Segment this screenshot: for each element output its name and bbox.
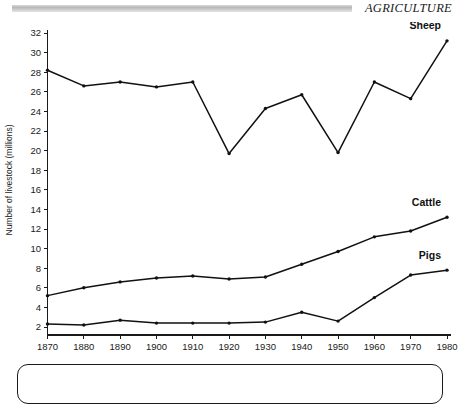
y-tick-label: 18 — [30, 165, 41, 176]
data-point — [155, 276, 158, 279]
data-point — [118, 280, 121, 283]
data-point — [373, 80, 376, 83]
x-tick-label: 1890 — [110, 341, 131, 352]
horizontal-rule-icon — [12, 5, 352, 12]
data-point — [336, 151, 339, 154]
data-point — [409, 97, 412, 100]
data-point — [155, 321, 158, 324]
x-tick-label: 1870 — [37, 341, 58, 352]
data-point — [373, 235, 376, 238]
y-tick-label: 20 — [30, 145, 41, 156]
y-tick-label: 24 — [30, 106, 41, 117]
series-label-sheep: Sheep — [409, 22, 441, 31]
x-tick-label: 1980 — [436, 341, 457, 352]
data-point — [336, 250, 339, 253]
data-point — [46, 322, 49, 325]
series-line-sheep — [48, 41, 448, 154]
data-point — [155, 85, 158, 88]
data-point — [300, 263, 303, 266]
y-axis-title-text: Number of livestock (millions) — [4, 124, 14, 235]
y-tick-label: 6 — [36, 282, 41, 293]
x-tick-label: 1950 — [327, 341, 348, 352]
series-label-pigs: Pigs — [419, 249, 441, 261]
x-tick-label: 1930 — [255, 341, 276, 352]
data-point — [191, 274, 194, 277]
y-tick-label: 26 — [30, 86, 41, 97]
data-point — [46, 69, 49, 72]
data-point — [118, 318, 121, 321]
data-point — [227, 152, 230, 155]
y-tick-label: 4 — [36, 302, 41, 313]
y-tick-label: 8 — [36, 263, 41, 274]
y-tick-label: 28 — [30, 67, 41, 78]
x-tick-label: 1960 — [364, 341, 385, 352]
y-tick-label: 14 — [30, 204, 41, 215]
y-tick-label: 16 — [30, 184, 41, 195]
data-point — [191, 80, 194, 83]
data-point — [409, 273, 412, 276]
y-tick-label: 22 — [30, 125, 41, 136]
series-line-cattle — [48, 217, 448, 295]
data-point — [46, 294, 49, 297]
y-tick-label: 32 — [30, 27, 41, 38]
data-point — [409, 229, 412, 232]
page-title: AGRICULTURE — [365, 1, 452, 16]
x-tick-label: 1920 — [219, 341, 240, 352]
series-label-cattle: Cattle — [412, 196, 441, 208]
data-point — [82, 286, 85, 289]
data-point — [300, 93, 303, 96]
x-tick-label: 1910 — [182, 341, 203, 352]
data-point — [264, 275, 267, 278]
y-tick-label: 12 — [30, 223, 41, 234]
livestock-line-chart: 2468101214161820222426283032 18701880189… — [0, 22, 460, 358]
data-point — [118, 80, 121, 83]
data-point — [445, 216, 448, 219]
data-point — [191, 321, 194, 324]
y-axis-ticks: 2468101214161820222426283032 — [30, 27, 47, 332]
x-tick-label: 1880 — [73, 341, 94, 352]
x-tick-label: 1970 — [400, 341, 421, 352]
page-header: AGRICULTURE — [0, 0, 460, 22]
data-point — [264, 320, 267, 323]
x-tick-label: 1940 — [291, 341, 312, 352]
data-point — [82, 323, 85, 326]
data-point — [227, 321, 230, 324]
x-tick-label: 1900 — [146, 341, 167, 352]
y-tick-label: 10 — [30, 243, 41, 254]
y-tick-label: 30 — [30, 47, 41, 58]
data-point — [373, 296, 376, 299]
data-point — [227, 277, 230, 280]
chart-axes — [48, 30, 452, 335]
x-axis-ticks: 1870188018901900191019201930194019501960… — [37, 335, 458, 352]
data-point — [300, 311, 303, 314]
caption-box — [17, 364, 443, 404]
data-point — [445, 268, 448, 271]
data-point — [264, 107, 267, 110]
chart-canvas: 2468101214161820222426283032 18701880189… — [0, 22, 460, 358]
data-point — [336, 319, 339, 322]
data-point — [445, 39, 448, 42]
data-point — [82, 84, 85, 87]
y-axis-title: Number of livestock (millions) — [4, 124, 14, 235]
y-tick-label: 2 — [36, 321, 41, 332]
chart-series — [46, 39, 449, 327]
